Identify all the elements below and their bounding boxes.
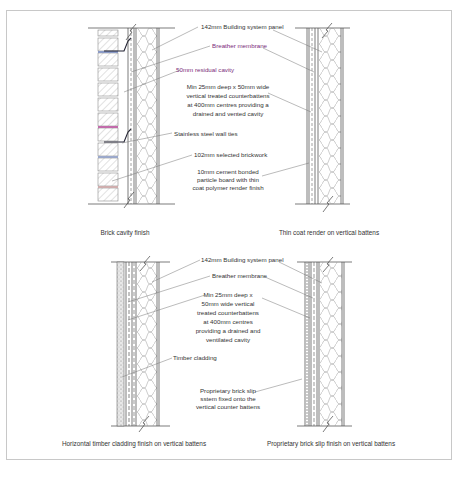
label-particle-board-2: particle board with thin	[197, 176, 259, 183]
label-brickwork: 102mm selected brickwork	[194, 151, 268, 158]
label-counterbattens-b5: providing a drained and	[196, 327, 261, 334]
label-brick-slip-3: vertical counter battens	[196, 403, 260, 410]
label-counterbattens-b6: ventilated cavity	[206, 336, 251, 343]
label-particle-board-1: 10mm cement bonded	[197, 168, 259, 175]
label-timber-cladding: Timber cladding	[173, 354, 217, 361]
section-brick-slip	[255, 257, 352, 432]
label-building-panel-2: 142mm Building system panel	[201, 256, 284, 263]
brickwork	[98, 30, 118, 201]
section-thin-coat-render	[262, 23, 350, 212]
label-breather-membrane: Breather membrane	[212, 42, 268, 49]
label-counterbattens-2: vertical treated counterbattens	[186, 92, 269, 99]
caption-timber-cladding: Horizontal timber cladding finish on ver…	[62, 440, 206, 448]
label-counterbattens-1: Min 25mm deep x 50mm wide	[187, 83, 270, 90]
label-counterbattens-3: at 400mm centres providing a	[187, 101, 269, 108]
label-brick-slip-1: Proprietary brick slip	[200, 387, 257, 394]
label-particle-board-3: coat polymer render finish	[192, 184, 264, 191]
label-brick-slip-2: sstem fixed onto the	[200, 395, 256, 402]
label-wall-ties: Stainless steel wall ties	[174, 130, 238, 137]
wall-sections-diagram: 142mm Building system panel Breather mem…	[0, 0, 472, 487]
caption-brick-slip: Proprietary brick slip finish on vertica…	[267, 440, 395, 448]
section-brick-cavity	[88, 24, 210, 208]
label-counterbattens-b4: at 400mm centres	[203, 318, 253, 325]
label-counterbattens-b3: treated counterbattens	[197, 309, 259, 316]
label-building-panel: 142mm Building system panel	[201, 23, 284, 30]
caption-brick-cavity: Brick cavity finish	[100, 229, 149, 237]
label-counterbattens-b1: Min 25mm deep x	[203, 291, 253, 298]
caption-thin-coat-render: Thin coat render on vertical battens	[279, 229, 379, 236]
label-counterbattens-b2: 50mm wide vertical	[202, 300, 255, 307]
label-breather-membrane-2: Breather membrane	[212, 272, 268, 279]
label-counterbattens-4: drained and vented cavity	[193, 110, 264, 117]
label-residual-cavity: 50mm residual cavity	[176, 66, 235, 73]
